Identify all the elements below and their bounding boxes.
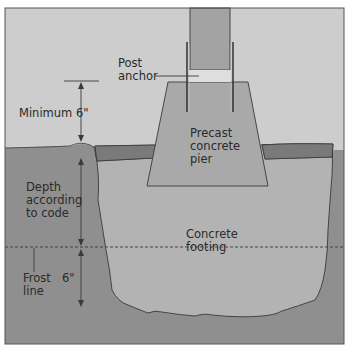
sod-strip-left-top: [95, 145, 157, 161]
depth-label-line3: to code: [26, 206, 69, 220]
pier-label-line3: pier: [190, 152, 213, 166]
frost-label-line1: Frost: [23, 271, 51, 285]
pier-label-line2: concrete: [190, 139, 240, 153]
footing-diagram: Post anchor Minimum 6" Precast concrete …: [0, 0, 355, 352]
depth-label-line1: Depth: [26, 180, 61, 194]
pier-label-line1: Precast: [190, 126, 233, 140]
post: [190, 8, 230, 70]
minimum-label: Minimum 6": [19, 106, 89, 120]
post-anchor-label-line2: anchor: [118, 69, 158, 83]
footing-label-line2: footing: [186, 240, 226, 254]
frost-label-line2: line: [23, 284, 44, 298]
sod-strip-right-top: [262, 144, 333, 159]
six-inch-label: 6": [62, 271, 75, 285]
post-anchor-label-line1: Post: [118, 56, 143, 70]
footing-label-line1: Concrete: [186, 227, 238, 241]
depth-label-line2: according: [26, 193, 82, 207]
